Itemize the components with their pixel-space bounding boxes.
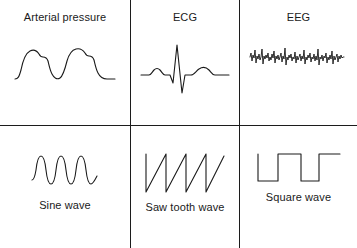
cell-saw-tooth-wave: Saw tooth wave: [131, 126, 239, 248]
waveform-comparison-figure: Arterial pressure ECG EEG Sine w: [0, 0, 357, 248]
cell-arterial-pressure: Arterial pressure: [0, 0, 130, 125]
ecg-waveform: [139, 37, 231, 97]
cell-ecg: ECG: [131, 0, 239, 125]
label-saw-tooth-wave: Saw tooth wave: [145, 202, 224, 213]
sine-waveform: [30, 150, 100, 194]
cell-eeg: EEG: [240, 0, 357, 125]
label-ecg: ECG: [173, 12, 197, 23]
eeg-waveform: [248, 37, 350, 77]
cell-sine-wave: Sine wave: [0, 126, 130, 248]
arterial-pressure-waveform: [13, 37, 117, 85]
cell-square-wave: Square wave: [240, 126, 357, 248]
label-sine-wave: Sine wave: [39, 200, 91, 211]
square-waveform: [255, 150, 343, 186]
sawtooth-waveform: [142, 150, 228, 196]
label-square-wave: Square wave: [266, 192, 331, 203]
label-eeg: EEG: [287, 12, 311, 23]
label-arterial-pressure: Arterial pressure: [24, 12, 106, 23]
